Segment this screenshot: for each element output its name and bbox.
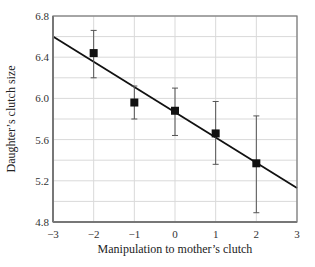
x-tick-label: 2 <box>254 228 260 240</box>
x-tick-label: −2 <box>88 228 100 240</box>
square-marker <box>252 159 260 167</box>
y-axis-label: Daughter’s clutch size <box>4 65 18 172</box>
square-marker <box>212 129 220 137</box>
x-axis-label: Manipulation to mother’s clutch <box>98 242 253 256</box>
y-axis-ticks: 4.85.25.66.06.46.8 <box>35 10 49 228</box>
x-tick-label: 1 <box>213 228 219 240</box>
square-marker <box>171 107 179 115</box>
y-tick-label: 6.4 <box>35 51 49 63</box>
square-marker <box>130 99 138 107</box>
x-tick-label: −1 <box>128 228 140 240</box>
y-tick-label: 5.6 <box>35 134 49 146</box>
x-tick-label: −3 <box>47 228 59 240</box>
x-tick-label: 3 <box>294 228 300 240</box>
y-tick-label: 4.8 <box>35 216 49 228</box>
x-axis-ticks: −3−2−10123 <box>47 228 300 240</box>
square-marker <box>90 49 98 57</box>
y-tick-label: 5.2 <box>35 175 49 187</box>
y-tick-label: 6.8 <box>35 10 49 22</box>
x-tick-label: 0 <box>172 228 178 240</box>
chart: −3−2−10123 4.85.25.66.06.46.8 Manipulati… <box>0 0 315 267</box>
y-tick-label: 6.0 <box>35 92 49 104</box>
